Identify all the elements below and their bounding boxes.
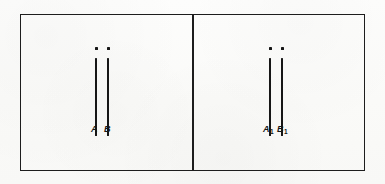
dot-above-slit-b xyxy=(107,47,110,50)
slit-group-right: A1 B1 xyxy=(193,14,365,171)
slit-label-b1: B1 xyxy=(277,125,288,134)
slit-label-a1-subscript: 1 xyxy=(270,128,274,135)
panel-right: A1 B1 xyxy=(193,14,365,171)
slit-label-a1-base: A xyxy=(263,124,270,134)
slit-label-b: B xyxy=(104,125,111,134)
panel-left: A B xyxy=(20,14,192,171)
slit-label-b1-base: B xyxy=(277,124,284,134)
figure-container: A B A1 B1 xyxy=(0,0,385,184)
slit-label-a: A xyxy=(91,125,98,134)
slit-label-b1-subscript: 1 xyxy=(284,128,288,135)
dot-above-slit-b1 xyxy=(281,47,284,50)
dot-above-slit-a1 xyxy=(269,47,272,50)
slit-group-left: A B xyxy=(20,14,192,171)
slit-label-a1: A1 xyxy=(263,125,274,134)
dot-above-slit-a xyxy=(95,47,98,50)
